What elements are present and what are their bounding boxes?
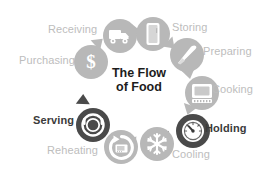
label-reheating: Reheating — [47, 144, 98, 156]
arrow-serving-to-purchasing — [76, 94, 90, 104]
label-purchasing: Purchasing — [19, 54, 75, 66]
label-cooling: Cooling — [172, 148, 210, 160]
label-storing: Storing — [172, 21, 208, 33]
snowflake-icon — [145, 132, 169, 156]
node-storing[interactable] — [136, 17, 170, 51]
covered-plate-icon — [80, 112, 106, 138]
node-preparing[interactable] — [170, 38, 204, 72]
flow-of-food-diagram: $ — [0, 0, 268, 174]
page-title-line-2: of Food — [104, 80, 174, 94]
delivery-truck-icon — [108, 27, 132, 45]
knife-icon — [174, 42, 200, 68]
label-serving: Serving — [33, 114, 74, 126]
label-holding: Holding — [205, 122, 247, 134]
node-receiving[interactable] — [103, 19, 137, 53]
oven-icon — [190, 81, 214, 105]
page-title: The Flow of Food — [104, 66, 174, 94]
page-title-line-1: The Flow — [104, 66, 174, 80]
label-cooking: Cooking — [212, 83, 253, 95]
node-cooling[interactable] — [140, 127, 174, 161]
refrigerator-icon — [145, 22, 161, 46]
label-receiving: Receiving — [48, 23, 97, 35]
svg-text:$: $ — [86, 51, 96, 72]
node-purchasing[interactable]: $ — [74, 45, 108, 79]
node-serving[interactable] — [76, 108, 110, 142]
thermometer-gauge-icon — [180, 118, 206, 144]
dollar-sign-icon: $ — [80, 51, 102, 73]
microwave-reheat-icon — [108, 134, 135, 161]
label-preparing: Preparing — [203, 45, 252, 57]
node-reheating[interactable] — [104, 130, 138, 164]
